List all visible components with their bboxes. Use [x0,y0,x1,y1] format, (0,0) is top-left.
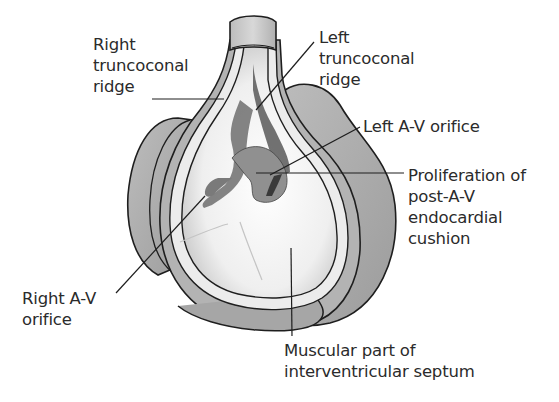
label-left-av-orifice: Left A-V orifice [363,116,480,137]
label-muscular-septum: Muscular part of interventricular septum [284,340,475,382]
label-right-av-orifice: Right A-V orifice [22,288,96,330]
label-left-truncoconal-ridge: Left truncoconal ridge [319,27,414,90]
truncus-arteriosus [230,16,276,50]
label-right-truncoconal-ridge: Right truncoconal ridge [93,34,188,97]
label-proliferation-cushion: Proliferation of post-A-V endocardial cu… [408,165,526,249]
